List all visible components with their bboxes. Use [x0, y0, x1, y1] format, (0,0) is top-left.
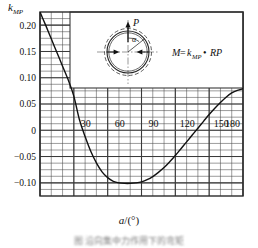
y-tick-label: 0.05	[19, 99, 36, 109]
y-axis-label: kMP	[8, 1, 23, 16]
y-axis-tick-labels: 0.200.150.100.050−0.05−0.10	[14, 21, 36, 189]
x-tick-label: 60	[115, 118, 125, 129]
x-tick-label: 180	[225, 118, 240, 129]
formula-k-subscript: MP	[191, 53, 201, 60]
y-tick-label: 0.10	[19, 73, 36, 83]
y-tick-label: 0	[31, 126, 36, 136]
inset-force-label: P	[132, 17, 139, 28]
formula-rp: RP	[209, 47, 222, 58]
x-tick-label: 90	[149, 118, 159, 129]
y-axis-label-subscript: MP	[13, 8, 23, 16]
plot-area: P α M = k MP • RP 0.200.150.100.050−0.05…	[0, 0, 258, 215]
x-axis-title: a/(°)	[0, 214, 258, 226]
chart-figure: kMP	[0, 0, 258, 248]
x-tick-label: 30	[81, 118, 91, 129]
formula-equals: =	[180, 47, 186, 58]
y-tick-label: 0.20	[19, 21, 36, 31]
y-tick-label: 0.15	[19, 47, 36, 57]
formula-dot: •	[203, 47, 207, 58]
figure-caption: 图 沿向集中力作用下的弯矩	[0, 234, 258, 247]
y-tick-label: −0.05	[14, 152, 36, 162]
x-tick-label: 120	[180, 118, 195, 129]
x-axis-title-unit: /(°)	[124, 214, 139, 226]
y-tick-label: −0.10	[14, 178, 36, 188]
